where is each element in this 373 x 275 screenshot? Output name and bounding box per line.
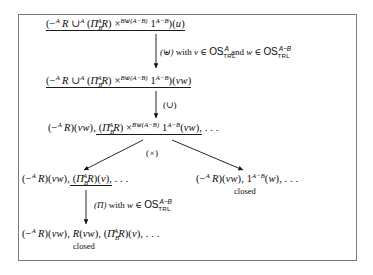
proof-node-4-left-ellipsis: . . . xyxy=(112,173,128,184)
proof-node-4-right: (−A R)(vw), 1A−B(w), . . . xyxy=(196,173,298,184)
edge-label-2-rule: (∪) xyxy=(163,100,177,110)
edge-label-4-condition: with w ∈ OSTRLA−B xyxy=(109,200,172,210)
proof-node-3-part1: (−A R)(vw), xyxy=(48,122,96,133)
edge-label-4-rule: (Π) xyxy=(94,200,107,210)
sup-A: A xyxy=(56,17,60,24)
proof-node-1: (−A R ∪A (ΠBAR) ×B⊎(A−B) 1A−B)(u) xyxy=(46,17,185,29)
arg-vw: vw xyxy=(176,75,188,86)
proof-node-2-formula: (−A R ∪A (ΠBAR) ×B⊎(A−B) 1A−B)(vw) xyxy=(46,75,191,88)
proof-node-5-formula: (−A R)(vw), R(vw), (ΠBAR)(v), . . . xyxy=(22,228,159,239)
edge-label-1-condition: with v ∈ OSTRLA and w ∈ OSTRLA−B xyxy=(176,47,291,57)
edge-label-3-rule: (×) xyxy=(146,148,158,158)
proof-node-3-ellipsis: . . . xyxy=(202,122,218,133)
edge-label-3: (×) xyxy=(146,148,158,158)
exponent-B-uplus-A-minus-B: B⊎(A−B) xyxy=(120,17,147,24)
proof-node-2: (−A R ∪A (ΠBAR) ×B⊎(A−B) 1A−B)(vw) xyxy=(46,74,191,86)
closed-annotation-bottom: closed xyxy=(73,241,95,251)
proof-node-3: (−A R)(vw), (ΠBAR) ×B⊎(A−B) 1A−B(vw), . … xyxy=(48,122,218,133)
proof-node-1-formula: (−A R ∪A (ΠBAR) ×B⊎(A−B) 1A−B)(u) xyxy=(46,18,185,31)
proof-node-4-left: (−A R)(vw), (ΠBAR)(v), . . . xyxy=(22,173,128,184)
sym-union: ∪ xyxy=(71,18,80,29)
proof-node-4-right-formula: (−A R)(vw), 1A−B(w), . . . xyxy=(196,173,298,184)
sym-R: R xyxy=(102,18,109,29)
figure-canvas: (−A R ∪A (ΠBAR) ×B⊎(A−B) 1A−B)(u) (⊎) wi… xyxy=(0,0,373,275)
sym-R: R xyxy=(62,18,69,29)
closed-annotation-right: closed xyxy=(234,186,256,196)
proof-node-5: (−A R)(vw), R(vw), (ΠBAR)(v), . . . xyxy=(22,228,159,239)
edge-label-1-rule: (⊎) xyxy=(160,47,174,57)
proof-node-4-left-part1: (−A R)(vw), xyxy=(22,173,70,184)
proof-node-4-left-part2: (ΠBAR)(v), xyxy=(70,173,112,186)
edge-label-1: (⊎) with v ∈ OSTRLA and w ∈ OSTRLA−B xyxy=(160,46,291,57)
exponent-A-minus-B: A−B xyxy=(156,17,169,24)
edge-label-4: (Π) with w ∈ OSTRLA−B xyxy=(94,199,172,210)
sup-A: A xyxy=(80,17,84,24)
arg-u: u xyxy=(176,18,181,29)
proof-node-3-part2: (ΠBAR) ×B⊎(A−B) 1A−B(vw), xyxy=(96,122,202,135)
edge-label-2: (∪) xyxy=(163,100,177,110)
